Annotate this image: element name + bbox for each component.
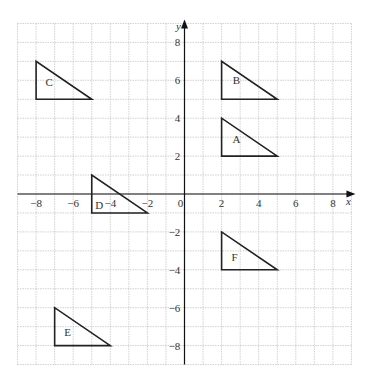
x-tick-label: 8 xyxy=(330,198,336,209)
x-tick-label: 2 xyxy=(219,198,225,209)
y-tick-label: −2 xyxy=(169,226,181,237)
x-tick-label: −4 xyxy=(104,198,116,209)
shape-label-c: C xyxy=(45,77,52,88)
coordinate-grid: −8−6−4−2024688642−2−4−6−8xyABCDEF xyxy=(0,0,367,384)
x-axis-label: x xyxy=(346,196,351,207)
shape-label-d: D xyxy=(95,200,103,211)
x-tick-label: 0 xyxy=(178,198,184,209)
shape-label-b: B xyxy=(233,75,240,86)
x-tick-label: 6 xyxy=(293,198,299,209)
y-tick-label: 2 xyxy=(175,151,181,162)
y-tick-label: 4 xyxy=(175,113,181,124)
y-tick-label: −4 xyxy=(169,264,181,275)
x-tick-label: −6 xyxy=(67,198,79,209)
x-tick-label: −8 xyxy=(30,198,42,209)
y-tick-label: −6 xyxy=(169,302,181,313)
shape-label-f: F xyxy=(232,251,238,262)
y-tick-label: −8 xyxy=(169,340,181,351)
x-tick-label: −2 xyxy=(142,198,154,209)
y-axis-label: y xyxy=(176,21,181,32)
y-tick-label: 8 xyxy=(175,37,181,48)
shape-label-e: E xyxy=(64,327,71,338)
y-tick-label: 6 xyxy=(175,75,181,86)
x-tick-label: 4 xyxy=(256,198,262,209)
shape-label-a: A xyxy=(232,134,240,145)
y-axis-arrow-icon xyxy=(181,19,188,28)
grid-canvas xyxy=(0,0,367,384)
